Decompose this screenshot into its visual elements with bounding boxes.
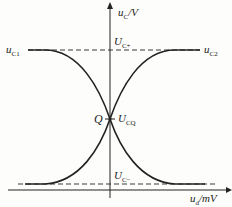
y-axis-label: uC/V bbox=[118, 7, 138, 21]
upper-level-label: UC+ bbox=[114, 36, 131, 50]
y-axis-arrow-icon bbox=[107, 2, 113, 9]
curve-uc2 bbox=[25, 50, 200, 184]
curve-uc2-label: uC2 bbox=[204, 44, 218, 58]
curve-uc1-label: uC1 bbox=[6, 44, 20, 58]
q-point-label: Q bbox=[94, 113, 103, 125]
q-value-label: UCQ bbox=[118, 113, 136, 127]
x-axis-label: ud/mV bbox=[190, 193, 217, 207]
curve-uc1 bbox=[28, 50, 205, 184]
lower-level-label: UC− bbox=[114, 170, 131, 184]
x-axis-arrow-icon bbox=[226, 187, 232, 193]
q-point bbox=[108, 117, 111, 120]
